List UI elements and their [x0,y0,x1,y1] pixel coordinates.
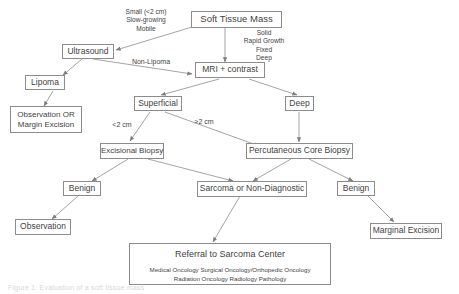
edge-label-aggressive-criteria-line2: Rapid Growth [228,37,300,45]
edge-label-greater-than-2cm: >2 cm [186,118,222,127]
edge-label-small-criteria: Small (<2 cm) Slow-growing Mobile [110,8,182,33]
edge-label-less-than-2cm: <2 cm [104,121,140,130]
node-sarcoma-or-non-diagnostic-label: Sarcoma or Non-Diagnostic [200,184,304,194]
edge-label-non-lipoma-text: Non-Lipoma [121,58,181,67]
edge-label-small-criteria-line2: Slow-growing [110,16,182,24]
node-benign-left[interactable]: Benign [63,181,101,196]
edge-label-aggressive-criteria: Solid Rapid Growth Fixed Deep [228,29,300,63]
edge-ultrasound-to-lipoma [63,59,82,75]
edge-label-aggressive-criteria-line3: Fixed [228,46,300,54]
node-excisional-biopsy[interactable]: Excisional Biopsy [100,143,164,159]
edge-label-less-than-2cm-text: <2 cm [104,121,140,130]
edge-label-small-criteria-line3: Mobile [110,25,182,33]
node-superficial-label: Superficial [138,99,178,109]
figure-caption: Figure 1. Evaluation of a soft tissue ma… [8,284,144,291]
node-sarcoma-or-non-diagnostic[interactable]: Sarcoma or Non-Diagnostic [197,181,307,197]
node-observation-or-margin-excision-label-line1: Observation OR [17,110,74,119]
node-benign-right-label: Benign [343,184,369,194]
node-observation-or-margin-excision[interactable]: Observation OR Margin Excision [10,106,82,133]
node-ultrasound-label: Ultrasound [67,47,108,57]
edge-excisional-to-benign-left [92,159,128,181]
node-lipoma-label: Lipoma [31,78,59,88]
edge-mri-to-superficial [161,79,219,95]
node-observation-or-margin-excision-label-line2: Margin Excision [18,120,74,129]
edge-label-non-lipoma: Non-Lipoma [121,58,181,67]
edge-benign-right-to-marginal-excision [368,196,394,222]
edge-benign-left-to-observation [52,196,78,219]
node-referral-specialties-line1: Medical Oncology Surgical Oncology/Ortho… [150,266,311,273]
edge-label-aggressive-criteria-line1: Solid [228,29,300,37]
edge-excisional-to-sarcoma [148,159,233,181]
node-percutaneous-core-biopsy[interactable]: Percutaneous Core Biopsy [246,143,353,159]
node-observation-label: Observation [20,222,66,232]
node-marginal-excision[interactable]: Marginal Excision [370,223,442,239]
edge-core-biopsy-to-sarcoma [253,159,291,181]
node-referral-specialties-line2: Radiation Oncology Radiology Pathology [174,275,286,282]
node-mri-contrast-label: MRI + contrast [202,65,258,75]
node-ultrasound[interactable]: Ultrasound [62,44,114,59]
node-benign-right[interactable]: Benign [337,181,375,196]
node-referral-to-sarcoma-center[interactable]: Referral to Sarcoma Center Medical Oncol… [129,243,331,285]
flowchart-canvas: Soft Tissue Mass Ultrasound Lipoma Obser… [0,0,459,294]
edge-label-small-criteria-line1: Small (<2 cm) [110,8,182,16]
node-excisional-biopsy-label: Excisional Biopsy [101,146,163,155]
node-marginal-excision-label: Marginal Excision [373,226,440,236]
node-referral-title: Referral to Sarcoma Center [175,249,285,259]
node-deep[interactable]: Deep [285,96,314,111]
node-percutaneous-core-biopsy-label: Percutaneous Core Biopsy [249,146,350,156]
node-soft-tissue-mass-label: Soft Tissue Mass [200,14,272,25]
node-mri-contrast[interactable]: MRI + contrast [195,62,265,78]
node-deep-label: Deep [289,99,309,109]
edge-sarcoma-to-referral [213,196,240,242]
node-lipoma[interactable]: Lipoma [25,75,65,90]
edge-lipoma-to-observation-margin [44,91,53,106]
edge-label-greater-than-2cm-text: >2 cm [186,118,222,127]
edge-mri-to-deep [249,79,297,95]
node-observation[interactable]: Observation [15,219,71,235]
node-soft-tissue-mass[interactable]: Soft Tissue Mass [191,11,282,28]
node-superficial[interactable]: Superficial [134,96,182,111]
node-benign-left-label: Benign [69,184,95,194]
edge-core-biopsy-to-benign-right [309,159,353,181]
